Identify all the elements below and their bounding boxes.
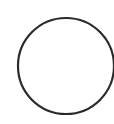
canvas xyxy=(0,0,114,124)
circle-outline-icon xyxy=(18,18,114,114)
